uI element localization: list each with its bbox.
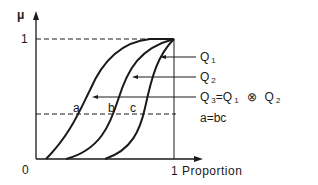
x-axis-arrow-icon — [194, 156, 203, 162]
x-axis-label: 1 Proportion — [171, 165, 242, 177]
point-c-label: c — [130, 102, 136, 114]
q3-arrow-icon — [92, 95, 98, 99]
q3-label: Q3=Q1⊗Q2 — [200, 91, 280, 107]
y-axis-label: μ — [17, 9, 24, 21]
origin-label: 0 — [22, 164, 29, 176]
relation-label: a=bc — [200, 112, 226, 124]
product-operator-icon: ⊗ — [247, 90, 257, 104]
curve-q3 — [46, 39, 174, 159]
q2-arrow-icon — [132, 75, 138, 79]
curve-q2 — [66, 39, 174, 159]
y-axis-arrow-icon — [33, 11, 39, 20]
point-b-label: b — [108, 102, 115, 114]
q1-label: Q1 — [200, 51, 216, 67]
point-a-label: a — [73, 102, 80, 114]
q2-label: Q2 — [200, 71, 216, 87]
y-tick-one: 1 — [21, 33, 28, 45]
